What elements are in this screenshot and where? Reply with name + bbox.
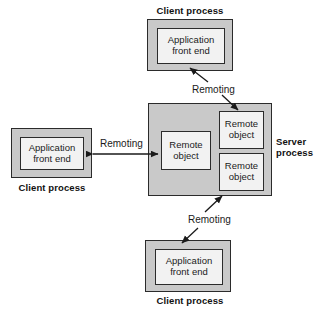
application-front-end-top: Application front end [157,28,225,64]
application-front-end-label: Application front end [166,256,212,277]
caption-server-process: Server process [276,136,324,158]
remote-object-top-right: Remote object [219,111,264,149]
caption-client-process-left: Client process [7,182,97,193]
server-process: Remote object Remote object Remote objec… [148,103,272,196]
application-front-end-left: Application front end [20,137,84,170]
client-process-top: Application front end [147,19,233,71]
remote-object-label: Remote object [225,161,258,182]
remoting-label-bottom: Remoting [188,214,231,225]
application-front-end-label: Application front end [168,35,214,56]
diagram-canvas: Client process Application front end Rem… [0,0,327,311]
application-front-end-label: Application front end [29,143,75,164]
remote-object-label: Remote object [169,140,202,161]
client-process-left: Application front end [11,128,92,178]
remote-object-center: Remote object [161,131,211,170]
remote-object-label: Remote object [225,119,258,140]
application-front-end-bottom: Application front end [155,249,223,285]
caption-client-process-bottom: Client process [145,295,235,306]
remoting-label-top: Remoting [192,84,235,95]
caption-client-process-top: Client process [147,5,233,16]
remote-object-bottom-right: Remote object [219,153,264,191]
client-process-bottom: Application front end [145,240,231,292]
remoting-label-left: Remoting [100,138,143,149]
